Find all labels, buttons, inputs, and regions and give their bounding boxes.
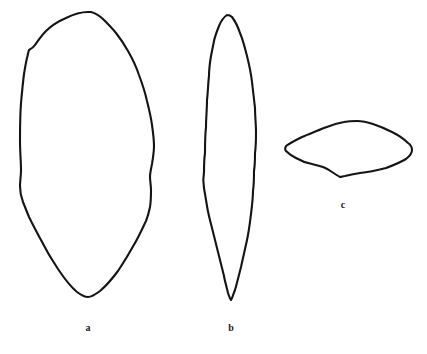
figure-panel: a b c — [0, 0, 427, 354]
specimen-label-c: c — [331, 200, 355, 210]
figure-caption-fragment — [8, 347, 419, 354]
specimen-label-a: a — [76, 323, 100, 333]
figure-background — [0, 0, 427, 354]
specimen-outline-canvas — [0, 0, 427, 354]
specimen-label-b: b — [219, 323, 243, 333]
